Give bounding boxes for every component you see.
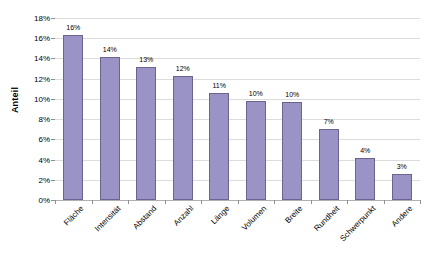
bar-value-label: 10% xyxy=(249,90,263,97)
bar-slot: 13% xyxy=(128,18,165,200)
bar-value-label: 12% xyxy=(176,65,190,72)
y-axis-tick-label: 4% xyxy=(6,155,50,164)
bar[interactable] xyxy=(173,76,193,200)
y-axis-tick-labels: 18%16%14%12%10%8%6%4%2%0% xyxy=(0,18,50,200)
y-axis-tick-label: 18% xyxy=(6,14,50,23)
y-axis-tick-label: 2% xyxy=(6,175,50,184)
bar[interactable] xyxy=(392,174,412,200)
x-axis-tick-label-text: Rundheit xyxy=(312,204,341,233)
bar-value-label: 13% xyxy=(139,56,153,63)
y-axis-tick-mark xyxy=(51,139,55,140)
bar-value-label: 7% xyxy=(324,118,334,125)
bar-value-label: 11% xyxy=(213,82,227,89)
x-axis-tick-label: Intensität xyxy=(93,204,122,233)
plot-area: 16%14%13%12%11%10%10%7%4%3% xyxy=(55,18,420,200)
y-axis-tick-label: 10% xyxy=(6,94,50,103)
y-axis-tick-label: 8% xyxy=(6,115,50,124)
y-axis-tick-label: 14% xyxy=(6,54,50,63)
bar[interactable] xyxy=(63,35,83,200)
bar-chart: Anteil 18%16%14%12%10%8%6%4%2%0% 16%14%1… xyxy=(0,0,440,267)
bar-slot: 10% xyxy=(274,18,311,200)
y-axis-tick-mark xyxy=(51,58,55,59)
x-axis-tick-label: Rundheit xyxy=(312,204,341,233)
y-axis-tick-label: 16% xyxy=(6,34,50,43)
x-axis-tick-label-text: Intensität xyxy=(93,204,122,233)
bar-value-label: 10% xyxy=(285,91,299,98)
x-axis-tick-label: Fläche xyxy=(62,204,85,227)
bar[interactable] xyxy=(246,101,266,200)
x-axis-tick-label-text: Fläche xyxy=(62,204,85,227)
bar-slot: 11% xyxy=(201,18,238,200)
x-axis-tick-label: Abstand xyxy=(131,204,158,231)
y-axis-tick-mark xyxy=(51,119,55,120)
y-axis-tick-mark xyxy=(51,160,55,161)
y-axis-tick-mark xyxy=(51,38,55,39)
x-axis-tick-label: Anzahl xyxy=(171,204,195,228)
bar[interactable] xyxy=(136,67,156,200)
bar[interactable] xyxy=(319,129,339,200)
y-axis-tick-label: 12% xyxy=(6,74,50,83)
y-axis-tick-mark xyxy=(51,200,55,201)
bar-slot: 7% xyxy=(311,18,348,200)
y-axis-tick-label: 0% xyxy=(6,196,50,205)
x-axis-tick-label: Volumen xyxy=(240,204,268,232)
bar-value-label: 3% xyxy=(397,163,407,170)
bar-slot: 10% xyxy=(238,18,275,200)
y-axis-tick-mark xyxy=(51,99,55,100)
bar[interactable] xyxy=(282,102,302,200)
x-axis-tick-label-text: Schwerpunkt xyxy=(339,204,378,243)
y-axis-tick-mark xyxy=(51,79,55,80)
x-axis-tick-label-text: Anzahl xyxy=(171,204,195,228)
y-axis-tick-mark xyxy=(51,180,55,181)
bar-slot: 3% xyxy=(384,18,421,200)
y-axis-tick-label: 6% xyxy=(6,135,50,144)
x-axis-tick-label-text: Breite xyxy=(283,204,304,225)
bar[interactable] xyxy=(209,93,229,200)
bar-slot: 14% xyxy=(92,18,129,200)
bar-value-label: 14% xyxy=(103,46,117,53)
x-axis-tick-label-text: Abstand xyxy=(131,204,158,231)
x-axis-tick-mark xyxy=(420,200,421,204)
y-axis-tick-mark xyxy=(51,18,55,19)
bar-slot: 4% xyxy=(347,18,384,200)
x-axis-tick-label: Andere xyxy=(390,204,415,229)
x-axis-tick-label-text: Andere xyxy=(390,204,415,229)
x-axis-tick-label: Schwerpunkt xyxy=(339,204,378,243)
bar-value-label: 4% xyxy=(360,147,370,154)
bar-value-label: 16% xyxy=(66,24,80,31)
x-axis-tick-label: Breite xyxy=(283,204,304,225)
bar-slot: 12% xyxy=(165,18,202,200)
bar[interactable] xyxy=(355,158,375,200)
x-axis-tick-label-text: Volumen xyxy=(240,204,268,232)
x-axis-labels: FlächeIntensitätAbstandAnzahlLängeVolume… xyxy=(55,204,420,267)
bar-slot: 16% xyxy=(55,18,92,200)
x-axis-tick-label-text: Länge xyxy=(210,204,232,226)
x-axis-tick-label: Länge xyxy=(210,204,232,226)
bar[interactable] xyxy=(100,57,120,200)
